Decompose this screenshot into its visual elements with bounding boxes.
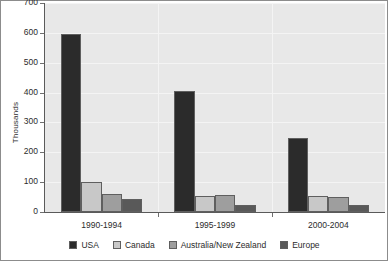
gridline-horizontal (45, 63, 385, 64)
gridline-vertical (158, 3, 159, 212)
bar (61, 34, 81, 212)
bar (288, 138, 308, 212)
bar (349, 205, 369, 212)
y-axis-tick-mark (40, 3, 44, 4)
x-axis-category-label: 1995-1999 (158, 220, 271, 230)
bar (195, 196, 215, 212)
chart-legend: USACanadaAustralia/New ZealandEurope (0, 240, 389, 250)
y-axis-tick-label: 0 (12, 207, 38, 216)
bar (174, 91, 194, 212)
y-axis-tick-mark (40, 63, 44, 64)
legend-label: USA (81, 240, 98, 250)
legend-label: Europe (292, 240, 319, 250)
gridline-horizontal (45, 33, 385, 34)
bar (102, 194, 122, 212)
legend-item: Australia/New Zealand (169, 240, 267, 250)
bar (215, 195, 235, 212)
legend-label: Australia/New Zealand (181, 240, 267, 250)
x-axis-tick-mark (158, 213, 159, 217)
y-axis-tick-label: 100 (12, 177, 38, 186)
x-axis-line (44, 212, 385, 213)
bar (308, 196, 328, 212)
legend-swatch-icon (280, 241, 288, 249)
y-axis-tick-label: 600 (12, 28, 38, 37)
legend-item: Europe (280, 240, 319, 250)
gridline-horizontal (45, 93, 385, 94)
plot-area (45, 3, 385, 212)
x-axis-tick-mark (272, 213, 273, 217)
legend-swatch-icon (169, 241, 177, 249)
y-axis-title: Thousands (11, 73, 20, 173)
y-axis-tick-mark (40, 212, 44, 213)
y-axis-tick-mark (40, 122, 44, 123)
y-axis-tick-label: 700 (12, 0, 38, 7)
legend-swatch-icon (69, 241, 77, 249)
gridline-horizontal (45, 3, 385, 4)
bar (235, 205, 255, 212)
legend-item: USA (69, 240, 98, 250)
y-axis-tick-mark (40, 152, 44, 153)
gridline-horizontal (45, 152, 385, 153)
bar (328, 197, 348, 212)
bar (122, 199, 142, 212)
y-axis-line (44, 3, 45, 213)
bar-chart: 0100200300400500600700 Thousands 1990-19… (0, 0, 389, 262)
legend-label: Canada (125, 240, 155, 250)
y-axis-tick-mark (40, 182, 44, 183)
bar (81, 182, 101, 212)
x-axis-category-label: 1990-1994 (45, 220, 158, 230)
gridline-horizontal (45, 122, 385, 123)
legend-swatch-icon (113, 241, 121, 249)
y-axis-tick-mark (40, 33, 44, 34)
legend-item: Canada (113, 240, 155, 250)
x-axis-category-label: 2000-2004 (272, 220, 385, 230)
gridline-vertical (272, 3, 273, 212)
y-axis-tick-mark (40, 93, 44, 94)
y-axis-tick-label: 500 (12, 58, 38, 67)
